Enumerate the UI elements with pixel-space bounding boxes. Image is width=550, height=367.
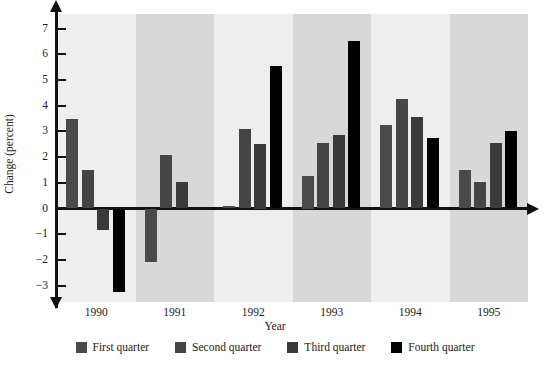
x-axis-line	[55, 207, 528, 210]
y-axis-tick-label: 4	[12, 100, 48, 112]
y-axis-title: Change (percent)	[3, 99, 15, 209]
y-axis-tick	[55, 233, 66, 235]
bar-1995-q2	[474, 182, 486, 209]
x-axis-label-1991: 1991	[135, 306, 215, 318]
bar-1992-q4	[270, 66, 282, 209]
y-axis-tick	[55, 28, 66, 30]
y-axis-arrow-up	[50, 0, 62, 12]
bar-1994-q2	[396, 99, 408, 208]
y-axis-tick-label: 1	[12, 177, 48, 189]
y-axis-tick	[55, 53, 66, 55]
bar-1994-q1	[380, 125, 392, 209]
legend-swatch-icon	[76, 342, 87, 353]
bar-1991-q3	[176, 182, 188, 209]
legend-label: Fourth quarter	[408, 342, 474, 354]
bar-1990-q3	[97, 209, 109, 231]
bar-1990-q4	[113, 209, 125, 293]
chart-legend: First quarterSecond quarterThird quarter…	[0, 342, 550, 354]
bar-1992-q1	[223, 206, 235, 209]
bar-1992-q3	[254, 144, 266, 208]
bar-1995-q1	[459, 170, 471, 209]
bar-1994-q4	[427, 138, 439, 209]
bar-1993-q1	[302, 176, 314, 208]
y-axis-tick	[55, 208, 66, 210]
bar-1992-q2	[239, 129, 251, 209]
legend-item-q4: Fourth quarter	[391, 342, 474, 354]
x-axis-label-1992: 1992	[213, 306, 293, 318]
y-axis-tick	[55, 259, 66, 261]
y-axis-tick-label: −3	[12, 280, 48, 292]
y-axis-tick-label: 7	[12, 23, 48, 35]
y-axis-tick	[55, 130, 66, 132]
y-axis-tick-label: 6	[12, 48, 48, 60]
bar-1995-q4	[505, 131, 517, 208]
x-axis-arrow-right	[527, 203, 539, 215]
y-axis-tick	[55, 156, 66, 158]
x-axis-label-1993: 1993	[292, 306, 372, 318]
legend-item-q3: Third quarter	[287, 342, 365, 354]
y-axis-tick-label: 3	[12, 125, 48, 137]
x-axis-title: Year	[0, 320, 550, 332]
bar-1991-q2	[160, 155, 172, 209]
legend-swatch-icon	[391, 342, 402, 353]
y-axis-tick	[55, 182, 66, 184]
legend-swatch-icon	[287, 342, 298, 353]
y-axis-tick-label: −1	[12, 228, 48, 240]
bar-1993-q2	[317, 143, 329, 209]
bar-1990-q2	[82, 170, 94, 209]
legend-label: First quarter	[93, 342, 150, 354]
x-axis-label-1990: 1990	[56, 306, 136, 318]
y-axis-tick	[55, 79, 66, 81]
y-axis-tick-label: 5	[12, 74, 48, 86]
legend-label: Second quarter	[192, 342, 261, 354]
legend-label: Third quarter	[304, 342, 365, 354]
bar-1990-q1	[66, 119, 78, 209]
legend-item-q2: Second quarter	[175, 342, 261, 354]
bar-1993-q3	[333, 135, 345, 208]
y-axis-tick-label: 2	[12, 151, 48, 163]
x-axis-label-1995: 1995	[449, 306, 529, 318]
bar-1994-q3	[411, 117, 423, 208]
legend-item-q1: First quarter	[76, 342, 150, 354]
x-axis-label-1994: 1994	[370, 306, 450, 318]
y-axis-tick-label: 0	[12, 203, 48, 215]
plot-area	[57, 14, 528, 302]
y-axis-tick	[55, 105, 66, 107]
bar-1993-q4	[348, 41, 360, 208]
y-axis-tick-label: −2	[12, 254, 48, 266]
bar-1991-q1	[145, 209, 157, 263]
chart-figure: 76543210−1−2−3 199019911992199319941995 …	[0, 0, 550, 367]
y-axis-tick	[55, 285, 66, 287]
bar-1995-q3	[490, 143, 502, 209]
legend-swatch-icon	[175, 342, 186, 353]
